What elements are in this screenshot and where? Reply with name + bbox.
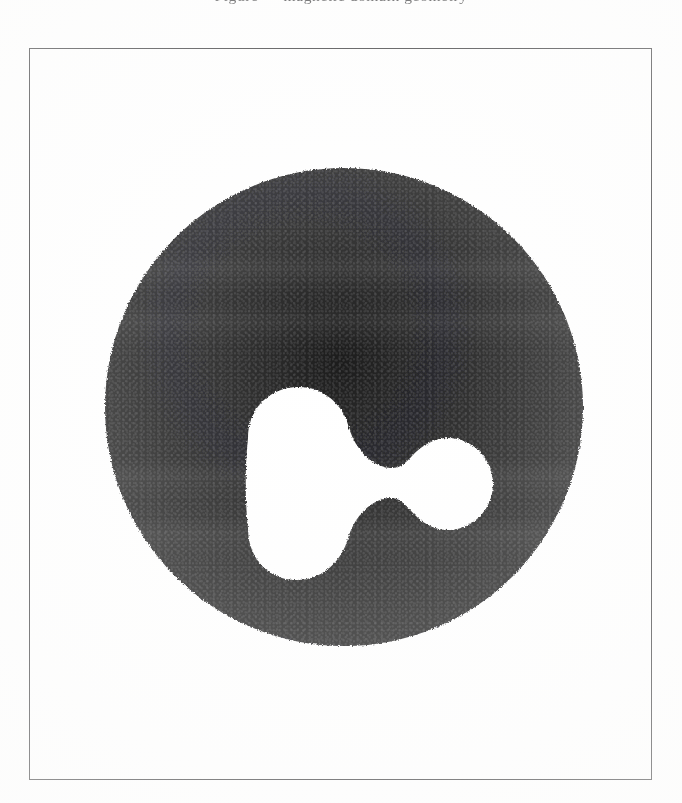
scanned-page: Figure — magnetic domain geometry: [0, 0, 682, 803]
dark-disc: [101, 166, 587, 649]
caption-text: Figure — magnetic domain geometry: [0, 0, 682, 5]
disc-svg: [101, 166, 587, 649]
clipped-caption: Figure — magnetic domain geometry: [0, 0, 682, 9]
disc-body: [105, 168, 583, 646]
figure-frame: [29, 48, 652, 780]
figure-canvas: [30, 49, 653, 781]
